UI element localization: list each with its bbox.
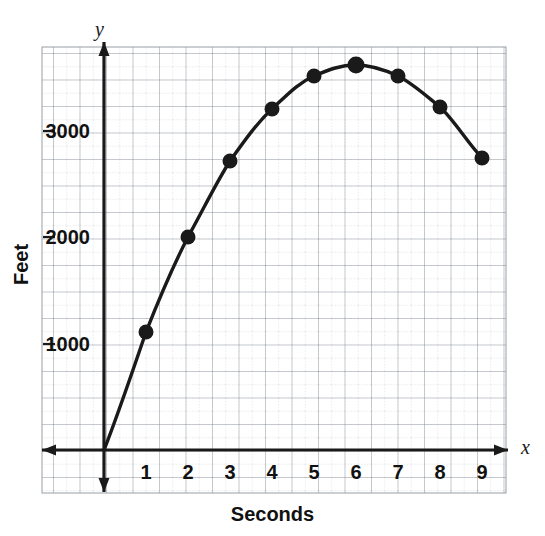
data-point: [265, 102, 280, 117]
y-axis-title: Feet: [10, 230, 33, 300]
data-point: [223, 154, 238, 169]
x-tick-label-2: 2: [182, 461, 193, 484]
x-tick-label-1: 1: [140, 461, 151, 484]
data-point: [139, 325, 154, 340]
data-point: [475, 151, 490, 166]
data-point: [181, 230, 196, 245]
data-point: [348, 57, 365, 74]
x-tick-label-6: 6: [350, 461, 361, 484]
data-point: [307, 69, 322, 84]
x-axis-letter: x: [521, 436, 530, 459]
x-tick-label-4: 4: [266, 461, 277, 484]
coordinate-plane-graph: [0, 0, 545, 536]
x-tick-label-3: 3: [224, 461, 235, 484]
x-tick-label-9: 9: [476, 461, 487, 484]
data-point: [433, 100, 448, 115]
y-tick-label-1000: 1000: [8, 333, 90, 356]
x-tick-label-5: 5: [308, 461, 319, 484]
x-tick-label-8: 8: [434, 461, 445, 484]
y-axis-letter: y: [95, 18, 104, 41]
y-tick-label-3000: 3000: [8, 120, 90, 143]
x-tick-label-7: 7: [392, 461, 403, 484]
data-point: [391, 69, 406, 84]
x-axis-title: Seconds: [0, 503, 545, 526]
